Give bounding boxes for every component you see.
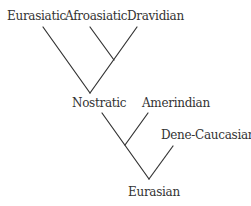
edge-dene-caucasian-eurasian (149, 146, 173, 179)
node-afroasiatic: Afroasiatic (65, 9, 127, 23)
language-tree-diagram: Eurasiatic Afroasiatic Dravidian Nostrat… (0, 0, 251, 206)
node-nostratic: Nostratic (72, 96, 126, 110)
node-dene-caucasian: Dene-Caucasian (161, 128, 251, 142)
edge-amerindian-junction (125, 113, 148, 145)
edge-afroasiatic-junction (90, 27, 114, 60)
edge-nostratic-eurasian (102, 113, 149, 179)
node-dravidian: Dravidian (127, 9, 184, 23)
node-eurasian: Eurasian (128, 185, 180, 199)
edge-eurasiatic-nostratic (43, 27, 90, 93)
node-amerindian: Amerindian (142, 96, 210, 110)
node-eurasiatic: Eurasiatic (7, 9, 66, 23)
